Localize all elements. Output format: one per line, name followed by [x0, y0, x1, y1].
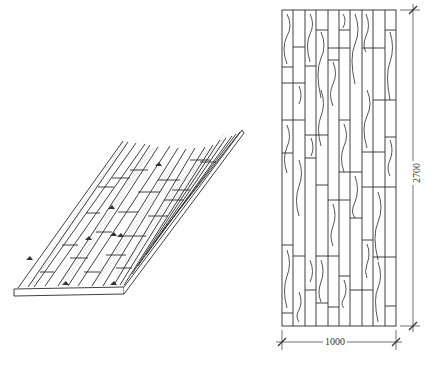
height-dimension-label: 2700: [412, 161, 422, 185]
elevation-view: [282, 10, 396, 326]
isometric-view: [14, 130, 244, 296]
base-slab: [14, 287, 124, 296]
drawing-canvas: [0, 0, 440, 366]
plank-lines: [18, 132, 240, 288]
width-dimension-label: 1000: [323, 337, 347, 347]
column-lines: [293, 10, 385, 326]
